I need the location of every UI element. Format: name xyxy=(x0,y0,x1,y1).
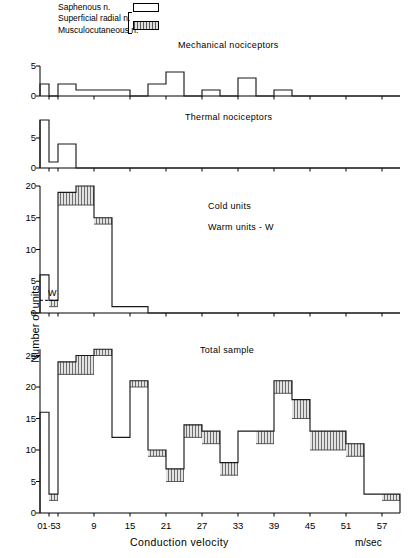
x-tick-label: 3 xyxy=(44,520,72,531)
figure-root: Saphenous n. Superficial radial n. Muscu… xyxy=(0,0,412,558)
y-tick-label: 5 xyxy=(6,275,36,286)
x-tick-label: 45 xyxy=(296,520,324,531)
x-tick-label: 9 xyxy=(80,520,108,531)
y-tick-label: 5 xyxy=(6,60,36,71)
panel-3-histogram xyxy=(36,349,400,516)
x-tick-label: 27 xyxy=(188,520,216,531)
panel-1-histogram xyxy=(36,120,400,172)
y-tick-label: 0 xyxy=(6,90,36,101)
y-tick-label: 0 xyxy=(6,162,36,173)
x-tick-label: 57 xyxy=(368,520,396,531)
x-tick-label: 21 xyxy=(152,520,180,531)
x-tick-label: 15 xyxy=(116,520,144,531)
x-tick-label: 33 xyxy=(224,520,252,531)
panel-2-histogram xyxy=(36,186,400,317)
x-tick-label: 51 xyxy=(332,520,360,531)
y-tick-label: 5 xyxy=(6,476,36,487)
y-tick-label: 15 xyxy=(6,212,36,223)
plot-canvas xyxy=(0,0,412,558)
y-tick-label: 0 xyxy=(6,307,36,318)
y-tick-label: 20 xyxy=(6,381,36,392)
panel-0-histogram xyxy=(36,66,400,100)
y-tick-label: 10 xyxy=(6,244,36,255)
y-tick-label: 25 xyxy=(6,350,36,361)
x-tick-label: 39 xyxy=(260,520,288,531)
y-tick-label: 5 xyxy=(6,132,36,143)
y-tick-label: 0 xyxy=(6,507,36,518)
y-tick-label: 20 xyxy=(6,180,36,191)
y-tick-label: 10 xyxy=(6,444,36,455)
y-tick-label: 15 xyxy=(6,413,36,424)
